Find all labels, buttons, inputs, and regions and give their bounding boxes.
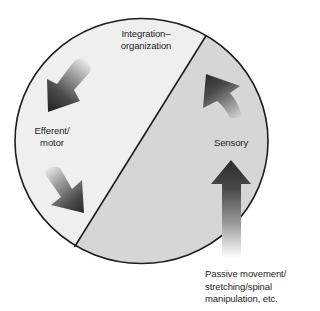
- sensory-label: Sensory: [208, 137, 254, 149]
- efferent-label-line2: motor: [28, 137, 76, 149]
- input-label-line3: manipulation, etc.: [205, 293, 286, 306]
- passive-movement-label: Passive movement/ stretching/spinal mani…: [205, 268, 286, 306]
- sensory-label-line1: Sensory: [208, 137, 254, 149]
- efferent-motor-label: Efferent/ motor: [28, 125, 76, 149]
- input-label-line1: Passive movement/: [205, 268, 286, 281]
- integration-label-line1: Integration–: [110, 28, 182, 40]
- integration-label-line2: organization: [110, 40, 182, 52]
- efferent-label-line1: Efferent/: [28, 125, 76, 137]
- input-label-line2: stretching/spinal: [205, 281, 286, 294]
- integration-organization-label: Integration– organization: [110, 28, 182, 52]
